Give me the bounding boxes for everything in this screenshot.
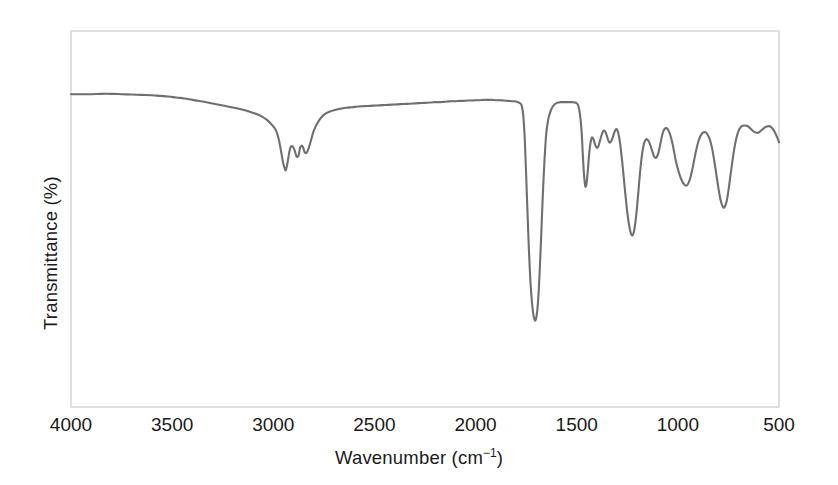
y-axis-title: Transmittance (%): [40, 176, 62, 330]
x-tick-500: 500: [739, 414, 819, 436]
x-tick-2500: 2500: [334, 414, 414, 436]
x-axis-title-base: Wavenumber (cm: [335, 447, 483, 468]
x-axis-title-tail: ): [497, 447, 503, 468]
x-tick-2000: 2000: [436, 414, 516, 436]
plot-background: [71, 31, 779, 407]
x-tick-3000: 3000: [233, 414, 313, 436]
x-tick-3500: 3500: [132, 414, 212, 436]
x-tick-1000: 1000: [638, 414, 718, 436]
x-tick-1500: 1500: [537, 414, 617, 436]
x-tick-4000: 4000: [31, 414, 111, 436]
ir-spectrum-figure: Transmittance (%) Wavenumber (cm−1) 4000…: [0, 0, 838, 485]
x-axis-title: Wavenumber (cm−1): [0, 446, 838, 469]
x-axis-title-exponent: −1: [483, 446, 497, 460]
spectrum-plot-svg: [0, 0, 838, 485]
